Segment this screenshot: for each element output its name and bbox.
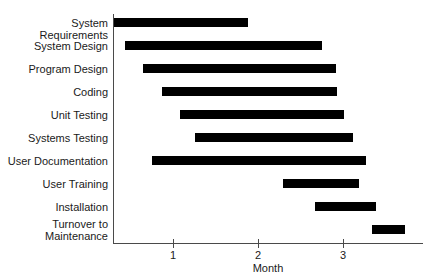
task-row: User Documentation	[0, 155, 437, 178]
x-tick-label: 1	[161, 249, 185, 262]
task-row: System Design	[0, 40, 437, 63]
task-bar	[152, 156, 366, 165]
task-label: User Training	[0, 178, 108, 190]
task-bar	[315, 202, 376, 211]
task-bar	[195, 133, 353, 142]
task-row: Coding	[0, 86, 437, 109]
task-label: System Requirements	[0, 17, 108, 41]
task-row: Systems Testing	[0, 132, 437, 155]
task-bar	[125, 41, 321, 50]
task-label: User Documentation	[0, 155, 108, 167]
task-label: Program Design	[0, 63, 108, 75]
x-tick-label: 2	[246, 249, 270, 262]
task-label: Unit Testing	[0, 109, 108, 121]
task-bar	[180, 110, 344, 119]
task-label: Installation	[0, 201, 108, 213]
task-row: Unit Testing	[0, 109, 437, 132]
gantt-chart: System RequirementsSystem DesignProgram …	[0, 0, 437, 279]
task-label: System Design	[0, 40, 108, 52]
task-label: Turnover toMaintenance	[0, 218, 108, 242]
x-tick	[173, 239, 174, 248]
task-bar	[283, 179, 360, 188]
task-bar	[162, 87, 337, 96]
task-row: Program Design	[0, 63, 437, 86]
task-bar	[372, 225, 405, 234]
task-label: Systems Testing	[0, 132, 108, 144]
x-tick-label: 3	[331, 249, 355, 262]
x-tick	[343, 239, 344, 248]
x-axis-title: Month	[113, 262, 423, 275]
task-row: User Training	[0, 178, 437, 201]
task-label: Coding	[0, 86, 108, 98]
task-bar	[114, 18, 247, 27]
task-row: Turnover toMaintenance	[0, 224, 437, 247]
task-row: System Requirements	[0, 17, 437, 40]
x-tick	[258, 239, 259, 248]
task-bar	[143, 64, 336, 73]
